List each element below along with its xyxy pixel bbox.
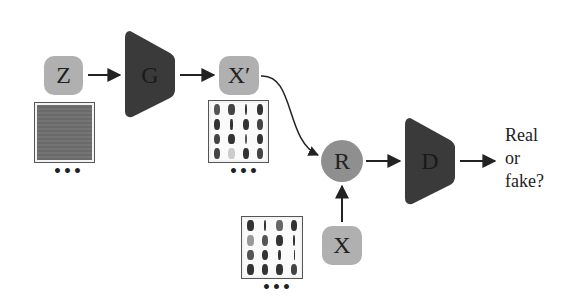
node-x: X [322, 226, 362, 265]
generated-ellipsis: ••• [229, 163, 259, 179]
node-z: Z [44, 56, 83, 95]
edge-xprime-r [261, 76, 318, 155]
node-d-label: D [405, 142, 455, 181]
real-images [241, 216, 303, 279]
output-label: Real or fake? [505, 124, 544, 193]
node-x-prime: X′ [219, 56, 259, 95]
output-line-or: or [505, 147, 544, 170]
node-g-label: G [125, 56, 175, 95]
noise-image [34, 102, 95, 163]
real-ellipsis: ••• [262, 279, 292, 295]
node-r: R [321, 140, 363, 182]
output-line-real: Real [505, 124, 544, 147]
output-line-fake: fake? [505, 170, 544, 193]
noise-ellipsis: ••• [53, 163, 83, 179]
generated-images [208, 100, 269, 163]
